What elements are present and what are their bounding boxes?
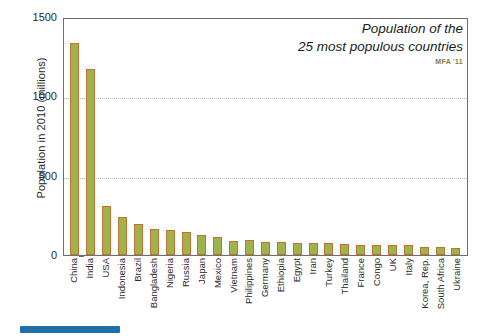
x-label-slot: Mexico: [210, 258, 226, 334]
y-tick-mark: [79, 256, 84, 257]
bar[interactable]: [261, 242, 270, 255]
x-label-slot: France: [353, 258, 369, 334]
bar[interactable]: [150, 229, 159, 255]
x-tick-label: Japan: [197, 258, 207, 284]
x-tick-label: Egypt: [293, 258, 303, 282]
bar[interactable]: [451, 248, 460, 255]
bar-slot: [83, 19, 99, 255]
bar[interactable]: [102, 206, 111, 255]
chart-title-line-2: 25 most populous countries: [203, 38, 463, 56]
chart-title-block: Population of the 25 most populous count…: [203, 20, 463, 65]
x-label-slot: Italy: [401, 258, 417, 334]
x-tick-label: Ukraine: [452, 258, 462, 291]
x-label-slot: UK: [385, 258, 401, 334]
x-tick-label: China: [69, 258, 79, 283]
x-tick-label: Vietnam: [229, 258, 239, 293]
y-axis-ticks: 050010001500: [21, 0, 57, 336]
x-label-slot: Ukraine: [449, 258, 465, 334]
bar[interactable]: [229, 241, 238, 255]
x-label-slot: India: [82, 258, 98, 334]
bar[interactable]: [197, 235, 206, 255]
x-label-slot: USA: [98, 258, 114, 334]
bar[interactable]: [277, 242, 286, 255]
bar[interactable]: [436, 247, 445, 255]
bar[interactable]: [118, 217, 127, 255]
bar-slot: [178, 19, 194, 255]
x-tick-label: Ethiopia: [277, 258, 287, 292]
x-label-slot: Japan: [194, 258, 210, 334]
x-tick-label: Italy: [404, 258, 414, 275]
x-label-slot: Iran: [305, 258, 321, 334]
x-tick-label: Korea, Rep.: [420, 258, 430, 309]
bar[interactable]: [356, 245, 365, 255]
x-tick-label: South Africa: [436, 258, 446, 309]
y-tick-label: 0: [23, 250, 57, 261]
y-tick-label: 1500: [23, 12, 57, 23]
bar[interactable]: [340, 244, 349, 255]
bar-slot: [131, 19, 147, 255]
x-tick-label: UK: [388, 258, 398, 271]
bar[interactable]: [166, 230, 175, 255]
x-label-slot: Indonesia: [114, 258, 130, 334]
x-label-slot: Ethiopia: [273, 258, 289, 334]
x-label-slot: Russia: [178, 258, 194, 334]
x-tick-label: Germany: [261, 258, 271, 297]
x-label-slot: Turkey: [321, 258, 337, 334]
bar[interactable]: [372, 245, 381, 255]
bar[interactable]: [420, 247, 429, 255]
x-tick-label: Iran: [309, 258, 319, 274]
bar[interactable]: [245, 240, 254, 255]
y-tick-label: 1000: [23, 91, 57, 102]
bar[interactable]: [213, 237, 222, 255]
x-tick-label: Thailand: [340, 258, 350, 294]
x-tick-label: Congo: [372, 258, 382, 286]
bar[interactable]: [134, 224, 143, 255]
x-label-slot: Thailand: [337, 258, 353, 334]
bar-slot: [162, 19, 178, 255]
x-tick-label: Indonesia: [117, 258, 127, 299]
x-tick-label: Bangladesh: [149, 258, 159, 308]
x-label-slot: Bangladesh: [146, 258, 162, 334]
bar[interactable]: [182, 232, 191, 255]
chart-credit: MFA '11: [203, 58, 463, 65]
chart-title-line-1: Population of the: [203, 20, 463, 38]
bar[interactable]: [86, 69, 95, 255]
x-tick-label: USA: [101, 258, 111, 278]
bar-slot: [146, 19, 162, 255]
bar[interactable]: [404, 245, 413, 255]
bar[interactable]: [388, 245, 397, 255]
chart-figure: Population in 2010 (millions) 0500100015…: [0, 0, 481, 336]
x-tick-label: Nigeria: [165, 258, 175, 288]
x-tick-label: Russia: [181, 258, 191, 287]
bar-slot: [67, 19, 83, 255]
x-label-slot: Egypt: [289, 258, 305, 334]
x-label-slot: Congo: [369, 258, 385, 334]
bar-slot: [115, 19, 131, 255]
x-label-slot: South Africa: [433, 258, 449, 334]
x-tick-label: Brazil: [133, 258, 143, 282]
x-label-slot: Vietnam: [226, 258, 242, 334]
x-label-slot: Brazil: [130, 258, 146, 334]
x-tick-label: Mexico: [213, 258, 223, 288]
x-tick-label: France: [356, 258, 366, 288]
progress-bar[interactable]: [20, 326, 120, 333]
y-tick-label: 500: [23, 171, 57, 182]
x-axis-ticks: ChinaIndiaUSAIndonesiaBrazilBangladeshNi…: [63, 258, 468, 334]
bar[interactable]: [324, 243, 333, 255]
x-label-slot: Philippines: [241, 258, 257, 334]
x-label-slot: Nigeria: [162, 258, 178, 334]
x-tick-label: Turkey: [324, 258, 334, 287]
x-label-slot: China: [66, 258, 82, 334]
bar[interactable]: [309, 243, 318, 255]
x-label-slot: Germany: [257, 258, 273, 334]
bar[interactable]: [70, 43, 79, 255]
bar-slot: [99, 19, 115, 255]
x-tick-label: India: [85, 258, 95, 279]
x-tick-label: Philippines: [245, 258, 255, 304]
x-label-slot: Korea, Rep.: [417, 258, 433, 334]
bar[interactable]: [293, 243, 302, 255]
